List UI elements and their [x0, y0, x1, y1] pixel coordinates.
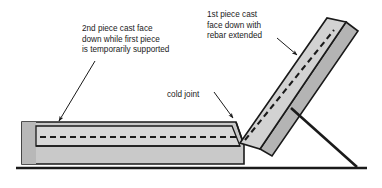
horizontal-slab-inner-band: [36, 126, 240, 146]
annotation-second-piece-cast: 2nd piece cast facedown while first piec…: [82, 24, 170, 54]
annotation-line: is temporarily supported: [82, 45, 170, 54]
annotation-line: rebar extended: [207, 31, 263, 40]
annotation-line: 2nd piece cast face: [82, 24, 153, 33]
tilt-up-panel-diagram: 2nd piece cast facedown while first piec…: [0, 0, 382, 188]
diagram-canvas: 2nd piece cast facedown while first piec…: [0, 0, 382, 188]
annotation-first-piece-cast: 1st piece castface down withrebar extend…: [207, 10, 263, 40]
horizontal-slab-left-edge: [22, 122, 36, 164]
leader-line-first-piece: [277, 38, 297, 55]
support-brace: [291, 108, 357, 167]
horizontal-slab-group: [22, 122, 244, 164]
annotation-line: down while first piece: [82, 35, 160, 44]
annotation-line: face down with: [207, 21, 262, 30]
tilted-panel-side-edge: [260, 22, 358, 156]
annotation-line: 1st piece cast: [207, 10, 258, 19]
annotation-cold-joint: cold joint: [167, 90, 200, 99]
leader-line-second-piece: [59, 61, 95, 121]
leader-line-cold-joint: [214, 92, 233, 118]
annotation-line: cold joint: [167, 90, 200, 99]
